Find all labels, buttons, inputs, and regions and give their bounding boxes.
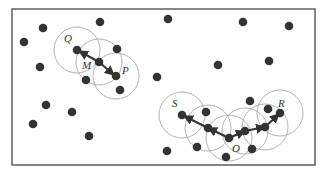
point-label: O — [232, 142, 240, 154]
data-point — [225, 134, 234, 143]
data-point — [95, 58, 104, 67]
data-point — [73, 46, 82, 55]
data-point — [112, 72, 121, 81]
data-point — [116, 86, 125, 95]
point-label: S — [172, 97, 178, 109]
data-point — [285, 22, 294, 31]
data-point — [214, 61, 223, 70]
data-point — [20, 38, 29, 47]
data-point — [164, 15, 173, 24]
data-point — [264, 105, 273, 114]
point-label: Q — [64, 32, 72, 44]
data-point — [96, 18, 105, 27]
data-point — [202, 108, 211, 117]
data-point — [276, 109, 285, 118]
data-point — [82, 76, 91, 85]
data-point — [178, 111, 187, 120]
data-point — [241, 127, 250, 136]
clustering-diagram: QMPSOR — [0, 0, 322, 177]
data-point — [39, 24, 48, 33]
data-point — [113, 45, 122, 54]
diagram-frame — [12, 9, 315, 165]
point-label: R — [277, 97, 285, 109]
data-point — [239, 18, 248, 27]
data-point — [204, 124, 213, 133]
data-point — [153, 73, 162, 82]
data-point — [163, 147, 172, 156]
data-point — [42, 101, 51, 110]
data-point — [246, 97, 255, 106]
data-point — [29, 120, 38, 129]
neighborhood-circles — [54, 27, 303, 161]
data-point — [261, 123, 270, 132]
data-point — [85, 132, 94, 141]
data-point — [248, 145, 257, 154]
point-label: P — [121, 64, 129, 76]
data-point — [222, 153, 231, 162]
data-point — [68, 108, 77, 117]
data-point — [193, 143, 202, 152]
density-path-arrows — [79, 51, 279, 138]
data-point — [265, 57, 274, 66]
diagram-canvas: QMPSOR — [0, 0, 322, 177]
data-point — [36, 63, 45, 72]
point-label: M — [81, 59, 92, 71]
